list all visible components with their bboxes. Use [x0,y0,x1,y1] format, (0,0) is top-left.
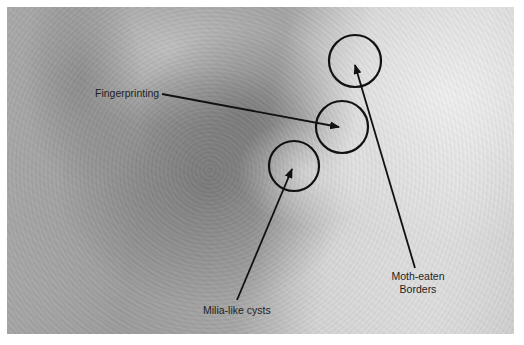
fingerprinting-label: Fingerprinting [95,87,159,100]
fingerprinting-circle [316,101,368,153]
moth-eaten-borders-arrow [355,65,415,268]
fingerprinting-arrow [162,94,339,127]
milia-like-cysts-circle [269,141,319,191]
moth-eaten-label-line1: Moth-eaten [388,270,448,283]
moth-eaten-borders-label: Moth-eaten Borders [388,270,448,296]
moth-eaten-borders-circle [329,35,381,87]
milia-like-cysts-label: Milia-like cysts [203,304,271,317]
dermoscopy-figure: Fingerprinting Milia-like cysts Moth-eat… [0,0,524,345]
moth-eaten-label-line2: Borders [388,283,448,296]
milia-like-cysts-arrow [237,169,292,300]
